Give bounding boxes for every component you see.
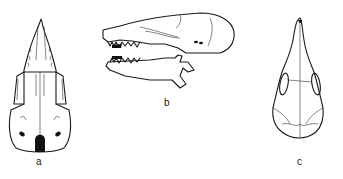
panel-label-c: c (297, 156, 302, 167)
skull-figure: a b c (0, 0, 343, 179)
skull-dorsal-drawing (0, 0, 343, 179)
